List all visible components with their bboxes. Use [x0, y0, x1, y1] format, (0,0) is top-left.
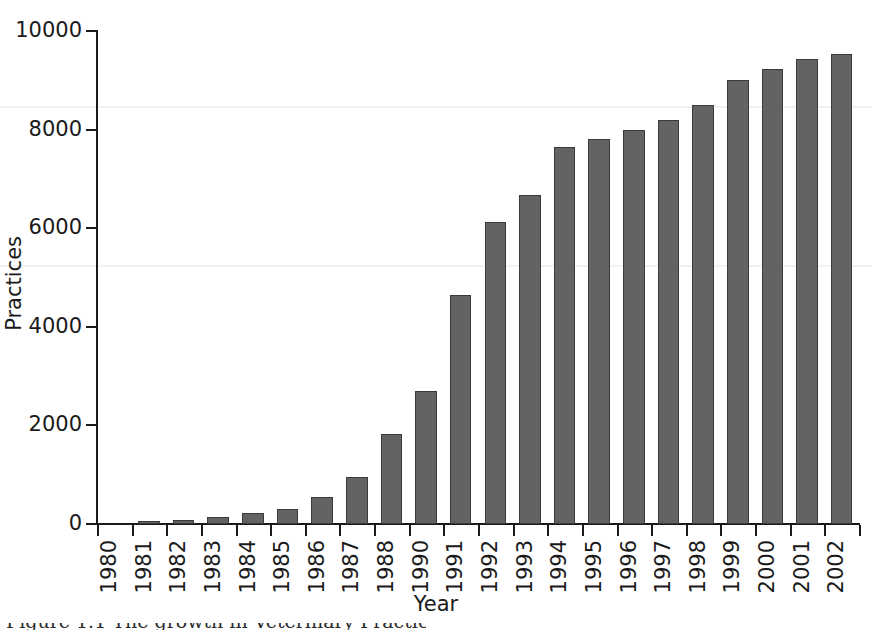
x-axis-tick-label: 1993	[514, 540, 535, 593]
x-axis-tick	[166, 525, 168, 536]
bar	[623, 130, 644, 524]
x-axis-tick	[790, 525, 792, 536]
bar	[173, 520, 194, 524]
bar	[588, 139, 609, 524]
bar	[692, 105, 713, 524]
x-axis-tick-label: 1985	[272, 540, 293, 593]
figure-caption-text: Figure 1.1 The growth in Veterinary Prac…	[6, 623, 426, 630]
x-axis-tick	[97, 525, 99, 536]
x-axis-tick	[270, 525, 272, 536]
x-axis-tick-label: 2000	[757, 540, 778, 593]
x-axis-tick	[305, 525, 307, 536]
x-axis-tick	[443, 525, 445, 536]
y-axis-tick	[86, 30, 97, 32]
x-axis-tick	[824, 525, 826, 536]
x-axis-tick-label: 1996	[618, 540, 639, 593]
x-axis-tick-label: 1997	[653, 540, 674, 593]
bar	[311, 497, 332, 524]
bar	[762, 69, 783, 524]
x-axis-tick	[617, 525, 619, 536]
y-axis-tick	[86, 523, 97, 525]
bar	[519, 195, 540, 524]
bar	[796, 59, 817, 524]
y-axis-tick-label: 2000	[2, 414, 82, 435]
x-axis-tick	[132, 525, 134, 536]
x-axis-tick-label: 2001	[791, 540, 812, 593]
x-axis-tick-label: 1999	[722, 540, 743, 593]
x-axis-tick-label: 1982	[168, 540, 189, 593]
bar	[207, 517, 228, 524]
x-axis-tick-label: 1988	[376, 540, 397, 593]
x-axis-tick-label: 1983	[202, 540, 223, 593]
x-axis-tick	[513, 525, 515, 536]
y-axis-tick	[86, 129, 97, 131]
bar	[381, 434, 402, 524]
x-axis-tick-label: 1994	[549, 540, 570, 593]
x-axis-tick	[374, 525, 376, 536]
bar	[485, 222, 506, 524]
y-axis-tick-label: 0	[2, 513, 82, 534]
y-axis-tick-label: 4000	[2, 316, 82, 337]
x-axis-tick	[236, 525, 238, 536]
bar	[346, 477, 367, 524]
y-axis-tick	[86, 326, 97, 328]
y-axis-tick	[86, 424, 97, 426]
x-axis-tick	[409, 525, 411, 536]
bar	[658, 120, 679, 524]
x-axis-tick-label: 2002	[826, 540, 847, 593]
x-axis-tick	[339, 525, 341, 536]
bar	[415, 391, 436, 524]
y-axis-tick-label: 6000	[2, 217, 82, 238]
x-axis-tick	[686, 525, 688, 536]
x-axis-tick	[478, 525, 480, 536]
x-axis-tick	[720, 525, 722, 536]
x-axis-title: Year	[0, 594, 872, 615]
x-axis-tick	[201, 525, 203, 536]
x-axis-tick	[582, 525, 584, 536]
bar	[277, 509, 298, 524]
figure-caption-clipped: Figure 1.1 The growth in Veterinary Prac…	[6, 623, 426, 630]
x-axis-tick	[859, 525, 861, 536]
bar	[831, 54, 852, 524]
x-axis-tick-label: 1998	[687, 540, 708, 593]
y-axis-tick	[86, 227, 97, 229]
bar	[554, 147, 575, 524]
x-axis-tick-label: 1991	[445, 540, 466, 593]
x-axis-tick-label: 1984	[237, 540, 258, 593]
bar	[138, 521, 159, 524]
x-axis-tick	[755, 525, 757, 536]
x-axis-tick-label: 1995	[583, 540, 604, 593]
bar	[242, 513, 263, 524]
x-axis-tick	[651, 525, 653, 536]
x-axis-tick-label: 1992	[480, 540, 501, 593]
bar	[727, 80, 748, 524]
y-axis-tick-label: 10000	[2, 20, 82, 41]
x-axis-tick-label: 1981	[133, 540, 154, 593]
x-axis-tick	[547, 525, 549, 536]
x-axis-tick-label: 1986	[306, 540, 327, 593]
x-axis-tick-label: 1987	[341, 540, 362, 593]
plot-area	[97, 31, 859, 524]
bar	[450, 295, 471, 524]
bar-chart-figure: Practices 0200040006000800010000 1980198…	[0, 0, 872, 630]
y-axis-tick-label: 8000	[2, 119, 82, 140]
x-axis-tick-label: 1990	[410, 540, 431, 593]
x-axis-tick-label: 1980	[99, 540, 120, 593]
